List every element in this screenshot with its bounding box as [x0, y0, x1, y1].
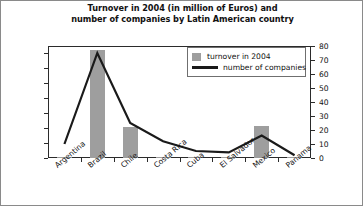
x-tick	[180, 158, 181, 162]
chart-title-line-1: Turnover in 2004 (in million of Euros) a…	[1, 3, 363, 14]
right-tick-label: 0	[319, 154, 349, 163]
right-tick-label: 20	[319, 126, 349, 135]
x-tick	[147, 158, 148, 162]
x-tick	[278, 158, 279, 162]
right-tick	[311, 130, 315, 131]
chart-title: Turnover in 2004 (in million of Euros) a…	[1, 3, 363, 24]
x-tick	[114, 158, 115, 162]
chart-figure: Turnover in 2004 (in million of Euros) a…	[0, 0, 363, 206]
right-tick	[311, 158, 315, 159]
right-tick-label: 50	[319, 84, 349, 93]
right-tick-label: 40	[319, 98, 349, 107]
right-tick	[311, 46, 315, 47]
right-tick	[311, 144, 315, 145]
right-tick-label: 60	[319, 70, 349, 79]
right-tick	[311, 74, 315, 75]
legend-item-turnover: turnover in 2004	[192, 51, 301, 62]
chart-title-line-2: number of companies by Latin American co…	[1, 14, 363, 25]
right-tick	[311, 102, 315, 103]
right-tick	[311, 116, 315, 117]
legend-swatch-square-icon	[192, 53, 201, 61]
right-tick-label: 70	[319, 56, 349, 65]
x-tick	[81, 158, 82, 162]
legend-label-turnover: turnover in 2004	[207, 52, 271, 61]
legend-line-icon	[192, 66, 218, 69]
right-tick-label: 10	[319, 140, 349, 149]
right-tick-label: 30	[319, 112, 349, 121]
legend-item-companies: number of companies	[192, 62, 301, 73]
legend-label-companies: number of companies	[223, 63, 306, 72]
x-tick	[212, 158, 213, 162]
right-tick	[311, 88, 315, 89]
chart-legend: turnover in 2004 number of companies	[187, 47, 306, 77]
right-tick	[311, 60, 315, 61]
left-tick	[44, 158, 48, 159]
right-tick-label: 80	[319, 42, 349, 51]
x-tick	[245, 158, 246, 162]
